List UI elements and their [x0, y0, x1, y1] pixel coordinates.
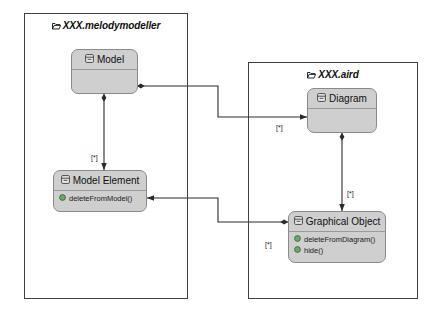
class-icon: [61, 175, 70, 186]
class-model-element-header: Model Element: [54, 171, 146, 191]
operation-delete-from-model: deleteFromModel(): [54, 193, 146, 204]
class-icon: [317, 93, 326, 104]
class-graphical-object-body: deleteFromDiagram() hide(): [289, 232, 385, 256]
class-diagram-header: Diagram: [308, 89, 376, 109]
class-diagram-body: [308, 109, 376, 111]
operation-label: hide(): [304, 246, 323, 255]
class-model-element[interactable]: Model Element deleteFromModel(): [53, 170, 147, 212]
class-model-element-name: Model Element: [73, 175, 140, 186]
operation-label: deleteFromModel(): [69, 194, 132, 203]
class-model-name: Model: [97, 54, 124, 65]
multiplicity-model-to-diagram: [*]: [276, 124, 283, 131]
operation-icon: [294, 246, 301, 255]
multiplicity-model-to-model-element: [*]: [91, 154, 98, 161]
operation-hide: hide(): [289, 245, 385, 256]
package-aird-label: XXX.aird: [318, 69, 358, 80]
operation-label: deleteFromDiagram(): [304, 235, 375, 244]
class-model-header: Model: [72, 50, 137, 70]
package-aird-title: XXX.aird: [249, 69, 417, 81]
multiplicity-model-element-to-graphical-object: [*]: [265, 241, 272, 248]
class-diagram[interactable]: Diagram: [307, 88, 377, 133]
class-model-body: [72, 70, 137, 72]
class-icon: [85, 54, 94, 65]
package-melodymodeller-title: XXX.melodymodeller: [25, 20, 187, 32]
class-graphical-object-header: Graphical Object: [289, 212, 385, 232]
class-model[interactable]: Model: [71, 49, 138, 94]
class-graphical-object[interactable]: Graphical Object deleteFromDiagram() hid…: [288, 211, 386, 263]
operation-delete-from-diagram: deleteFromDiagram(): [289, 234, 385, 245]
class-graphical-object-name: Graphical Object: [306, 216, 380, 227]
operation-icon: [59, 194, 66, 203]
class-model-element-body: deleteFromModel(): [54, 191, 146, 204]
class-icon: [294, 216, 303, 227]
diagram-canvas: XXX.melodymodeller XXX.aird Model: [0, 0, 429, 311]
class-diagram-name: Diagram: [329, 93, 367, 104]
multiplicity-diagram-to-graphical-object: [*]: [347, 190, 354, 197]
package-icon: [52, 21, 61, 32]
package-icon: [307, 70, 316, 81]
package-melodymodeller-label: XXX.melodymodeller: [63, 20, 161, 31]
operation-icon: [294, 235, 301, 244]
